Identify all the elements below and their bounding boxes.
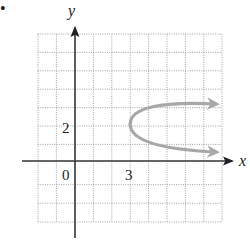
y-tick-label-2: 2 xyxy=(62,120,70,136)
parabola-curve xyxy=(130,103,216,152)
x-axis-label: x xyxy=(238,152,246,169)
x-tick-label-3: 3 xyxy=(125,167,133,183)
bullet-marker: • xyxy=(0,0,6,17)
origin-label: 0 xyxy=(62,167,70,183)
y-axis-label: y xyxy=(66,2,76,20)
parabola-graph: • x y 0 3 2 xyxy=(0,0,250,242)
